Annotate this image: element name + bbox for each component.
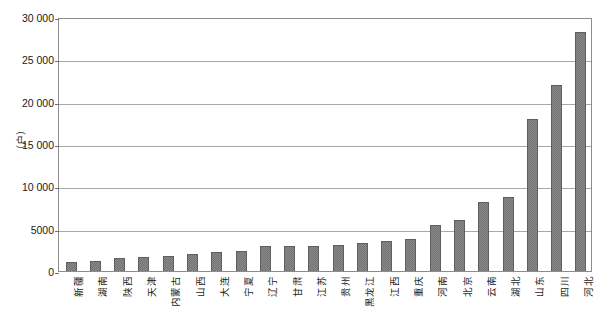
x-tick-label-text: 湖南 [98,276,108,297]
x-tick-label-text: 大连 [220,276,230,297]
x-tick-label: 北京 [463,276,473,297]
y-tick-label: 10 000 [2,182,54,192]
y-tick-label: 20 000 [2,98,54,108]
x-tick-label: 湖北 [511,276,521,297]
x-tick-label: 重庆 [414,276,424,297]
bar[interactable] [575,32,586,271]
x-tick-label-text: 江苏 [317,276,327,297]
x-tick-label: 大连 [220,276,230,297]
x-tick-label-text: 天津 [147,276,157,297]
x-tick-label: 河南 [438,276,448,297]
bar[interactable] [66,262,77,271]
x-tick-label: 山东 [535,276,545,297]
x-tick-label: 黑龙江 [365,276,375,307]
x-tick-label-text: 北京 [463,276,473,297]
x-tick-label: 江苏 [317,276,327,297]
x-axis-tick-labels: 新疆湖南陕西天津内蒙古山西大连宁夏辽宁甘肃江苏贵州黑龙江江西重庆河南北京云南湖北… [58,274,592,324]
x-tick-label-text: 陕西 [123,276,133,297]
plot-area [58,18,592,272]
x-tick-label: 河北 [584,276,594,297]
x-tick-label-text: 重庆 [414,276,424,297]
y-axis-tick-labels: 0500010 00015 00020 00025 00030 000 [0,0,54,324]
bar[interactable] [260,246,271,271]
bars-layer [59,19,591,271]
bar[interactable] [284,246,295,271]
y-tick-label: 15 000 [2,140,54,150]
bar[interactable] [163,256,174,271]
bar-chart: （户） 0500010 00015 00020 00025 00030 000 … [0,0,610,324]
bar[interactable] [405,239,416,271]
x-tick-label: 江西 [390,276,400,297]
x-tick-label: 宁夏 [244,276,254,297]
bar[interactable] [114,258,125,271]
x-tick-label: 新疆 [74,276,84,297]
bar[interactable] [187,254,198,271]
bar[interactable] [503,197,514,271]
x-tick-label: 辽宁 [268,276,278,297]
x-tick-label-text: 新疆 [74,276,84,297]
x-tick-label-text: 辽宁 [268,276,278,297]
x-tick-label: 贵州 [341,276,351,297]
x-tick-label: 甘肃 [293,276,303,297]
y-tick-label: 30 000 [2,13,54,23]
bar[interactable] [308,246,319,271]
bar[interactable] [381,241,392,271]
bar[interactable] [430,225,441,271]
x-tick-label-text: 山东 [535,276,545,297]
x-tick-label-text: 黑龙江 [365,276,375,307]
bar[interactable] [357,243,368,271]
x-tick-label-text: 河北 [584,276,594,297]
bar[interactable] [478,202,489,271]
x-tick-label-text: 山西 [196,276,206,297]
x-tick-label-text: 甘肃 [293,276,303,297]
x-tick-label-text: 内蒙古 [171,276,181,307]
x-tick-label: 天津 [147,276,157,297]
x-tick-label: 云南 [487,276,497,297]
x-tick-label: 湖南 [98,276,108,297]
bar[interactable] [138,257,149,271]
bar[interactable] [90,261,101,271]
x-tick-label-text: 河南 [438,276,448,297]
bar[interactable] [527,119,538,271]
bar[interactable] [211,252,222,271]
x-tick-label-text: 江西 [390,276,400,297]
x-tick-label-text: 云南 [487,276,497,297]
y-tick-label: 5000 [2,225,54,235]
y-tick-label: 25 000 [2,55,54,65]
x-tick-label-text: 宁夏 [244,276,254,297]
x-tick-label: 山西 [196,276,206,297]
x-tick-label-text: 贵州 [341,276,351,297]
bar[interactable] [236,251,247,271]
bar[interactable] [333,245,344,271]
x-tick-label: 内蒙古 [171,276,181,307]
x-tick-label-text: 湖北 [511,276,521,297]
x-tick-label: 四川 [560,276,570,297]
x-tick-label-text: 四川 [560,276,570,297]
y-tick-label: 0 [2,267,54,277]
x-tick-label: 陕西 [123,276,133,297]
bar[interactable] [454,220,465,271]
bar[interactable] [551,85,562,271]
